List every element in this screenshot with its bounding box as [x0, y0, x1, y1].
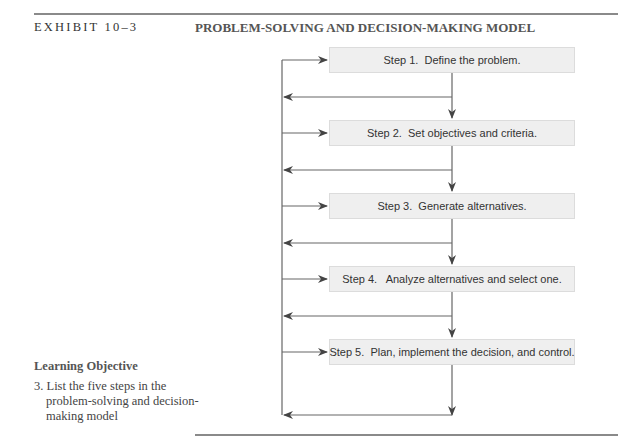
step-4-box: Step 4. Analyze alternatives and select … — [329, 266, 575, 292]
learning-objective-heading: Learning Objective — [34, 359, 204, 374]
learning-objective-item: 3. List the five steps in the problem-so… — [34, 379, 204, 424]
step-3-box: Step 3. Generate alternatives. — [329, 193, 575, 219]
learning-objective: Learning Objective 3. List the five step… — [34, 359, 204, 424]
step-5-box: Step 5. Plan, implement the decision, an… — [329, 339, 575, 365]
step-2-box: Step 2. Set objectives and criteria. — [329, 120, 575, 146]
bottom-rule — [195, 434, 618, 436]
step-1-box: Step 1. Define the problem. — [329, 47, 575, 73]
